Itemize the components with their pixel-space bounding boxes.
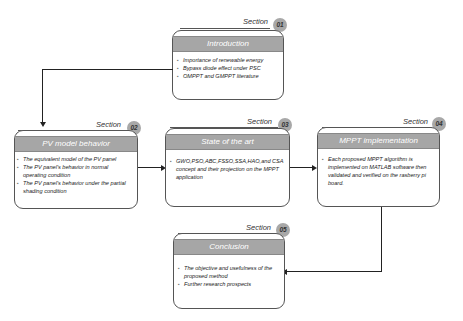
list-item: The objective and usefulness of the prop… [178,264,280,280]
section-label-05: Section [246,223,271,232]
state-of-art-items: GWO,PSO,ABC,FSSO,SSA,HAO,and CSA concept… [170,157,285,181]
section-label-04: Section [403,117,428,126]
connector-04-05-vertical [381,207,382,272]
connector-04-05-horizontal [287,271,382,272]
section-label-01: Section [243,17,268,26]
list-item: Each proposed MPPT algorithm is implemen… [322,155,435,187]
section-label-02: Section [96,120,121,129]
box-title-pv-model: PV model behavior [15,136,137,152]
list-item: Further research prospects [178,280,280,288]
box-introduction: Introduction Importance of renewable ene… [172,30,284,100]
box-title-mppt: MPPT implementation [318,133,439,149]
list-item: OMPPT and GMPPT literature [177,72,279,80]
conclusion-items: The objective and usefulness of the prop… [178,264,280,288]
mppt-items: Each proposed MPPT algorithm is implemen… [322,155,435,187]
box-conclusion: Conclusion The objective and usefulness … [173,233,285,309]
introduction-items: Importance of renewable energy Bypass di… [177,56,279,80]
section-underline-01 [180,28,270,29]
list-item: Bypass diode effect under PSC [177,64,279,72]
connector-01-02-horizontal [42,69,173,70]
connector-02-03 [138,167,162,168]
list-item: Importance of renewable energy [177,56,279,64]
section-label-03: Section [247,117,272,126]
list-item: GWO,PSO,ABC,FSSO,SSA,HAO,and CSA concept… [170,157,285,181]
pv-model-items: The equivalent model of the PV panel The… [17,155,133,195]
connector-03-04 [290,167,313,168]
list-item: The equivalent model of the PV panel [17,155,133,163]
box-title-conclusion: Conclusion [174,239,284,255]
connector-01-02-vertical [42,69,43,124]
box-mppt-implementation: MPPT implementation Each proposed MPPT a… [317,127,440,207]
list-item: The PV panel's behavior in normal operat… [17,163,133,179]
box-title-state-of-art: State of the art [166,134,289,150]
arrow-down-icon [40,122,46,127]
list-item: The PV panel's behavior under the partia… [17,179,133,195]
box-pv-model-behavior: PV model behavior The equivalent model o… [14,130,138,209]
box-state-of-the-art: State of the art GWO,PSO,ABC,FSSO,SSA,HA… [165,128,290,207]
box-title-introduction: Introduction [173,36,283,52]
